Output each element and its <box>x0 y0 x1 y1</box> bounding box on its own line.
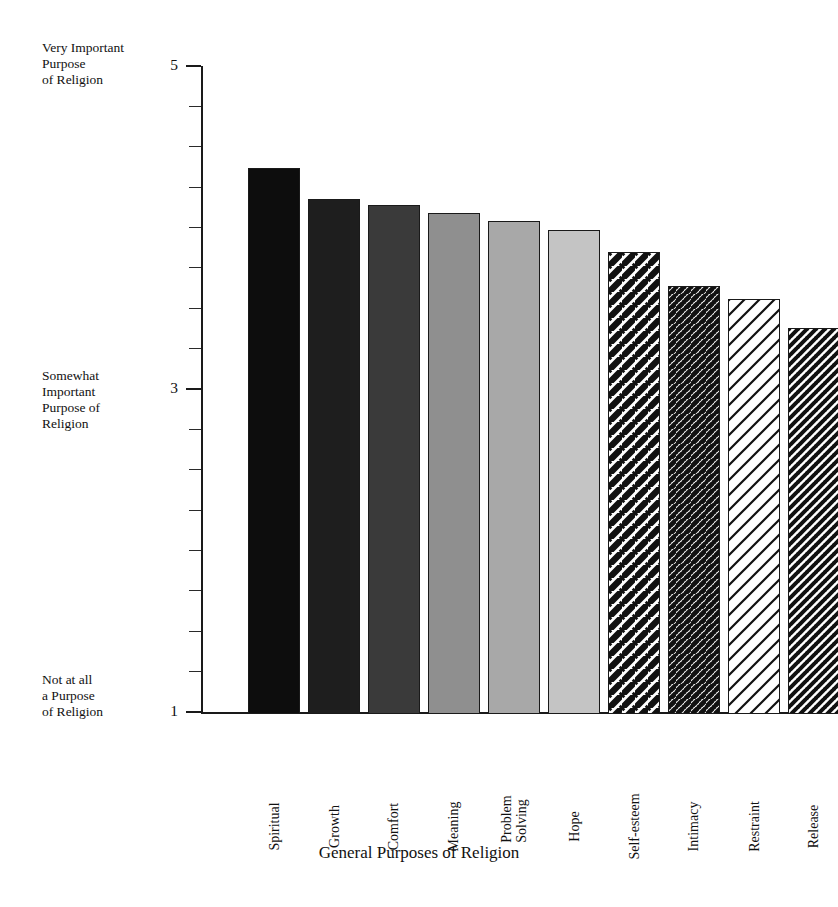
bar-self-esteem <box>608 252 660 714</box>
y-axis-anchor-label-low: Not at all a Purpose of Religion <box>42 672 103 720</box>
x-axis-tick-label-text: Hope <box>566 811 581 841</box>
x-axis-tick-label: Release <box>788 716 838 834</box>
y-axis-minor-tick <box>189 187 201 188</box>
x-axis-tick-label-text: Growth <box>327 805 342 848</box>
y-axis-minor-tick <box>189 106 201 107</box>
bar-restraint <box>728 299 780 714</box>
y-axis-major-tick <box>186 711 201 713</box>
y-axis-tick-label: 3 <box>152 380 178 396</box>
x-axis-tick-label-text: Release <box>807 805 822 849</box>
y-axis-minor-tick <box>189 348 201 349</box>
y-axis-minor-tick <box>189 429 201 430</box>
x-axis-tick-label: Intimacy <box>668 716 720 834</box>
plot-area <box>201 66 818 714</box>
bar-spiritual <box>248 168 300 714</box>
x-axis-title: General Purposes of Religion <box>0 843 838 863</box>
bar-growth <box>308 199 360 714</box>
x-axis-tick-label: Spiritual <box>248 716 300 834</box>
y-axis-minor-tick <box>189 227 201 228</box>
x-axis-tick-label: Self-esteem <box>608 716 660 834</box>
x-axis-tick-label: Hope <box>548 716 600 834</box>
y-axis-anchor-label-mid: Somewhat Important Purpose of Religion <box>42 368 100 432</box>
bar-intimacy <box>668 286 720 714</box>
x-axis-tick-label: Comfort <box>368 716 420 834</box>
y-axis-major-tick <box>186 388 201 390</box>
y-axis-major-tick <box>186 65 201 67</box>
y-axis-minor-tick <box>189 631 201 632</box>
y-axis-minor-tick <box>189 469 201 470</box>
bar-comfort <box>368 205 420 714</box>
bar-problem-solving <box>488 221 540 714</box>
y-axis-minor-tick <box>189 590 201 591</box>
bar-chart-figure: Very Important Purpose of Religion Somew… <box>0 0 838 907</box>
y-axis-minor-tick <box>189 510 201 511</box>
x-axis-tick-label: Growth <box>308 716 360 834</box>
y-axis-tick-label: 1 <box>152 703 178 719</box>
y-axis-minor-tick <box>189 267 201 268</box>
x-axis-tick-label: Problem Solving <box>488 716 540 834</box>
y-axis-minor-tick <box>189 671 201 672</box>
x-axis-tick-label-text: Problem Solving <box>499 795 529 842</box>
y-axis-minor-tick <box>189 550 201 551</box>
y-axis-anchor-label-high: Very Important Purpose of Religion <box>42 40 124 88</box>
x-axis-tick-label: Restraint <box>728 716 780 834</box>
bar-hope <box>548 230 600 715</box>
y-axis-minor-tick <box>189 146 201 147</box>
bar-meaning <box>428 213 480 714</box>
y-axis-minor-tick <box>189 308 201 309</box>
x-axis-tick-labels: SpiritualGrowthComfortMeaningProblem Sol… <box>201 716 818 836</box>
x-axis-tick-label: Meaning <box>428 716 480 834</box>
bar-release <box>788 328 838 714</box>
y-axis-tick-label: 5 <box>152 57 178 73</box>
